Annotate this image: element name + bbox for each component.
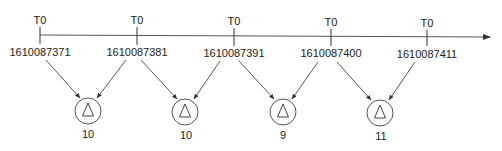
timeline-diagram: T0 1610087371 T0 1610087381 T0 161008739…	[0, 0, 502, 151]
tick-2: T0 1610087391	[203, 15, 264, 59]
tick-0: T0 1610087371	[9, 14, 70, 58]
delta-node-1: 10	[141, 60, 220, 141]
node-value: 11	[375, 130, 386, 142]
tick-label: T0	[228, 15, 241, 27]
tick-timestamp: 1610087400	[300, 47, 361, 59]
tick-3: T0 1610087400	[300, 16, 361, 59]
tick-label: T0	[34, 14, 47, 26]
tick-label: T0	[131, 14, 144, 26]
delta-node-0: 10	[46, 60, 126, 140]
delta-node-2: 9	[239, 61, 318, 141]
delta-node-3: 11	[337, 62, 415, 142]
tick-4: T0 1610087411	[397, 17, 457, 60]
tick-timestamp: 1610087381	[106, 46, 167, 58]
tick-label: T0	[325, 16, 338, 28]
tick-timestamp: 1610087371	[9, 46, 70, 58]
tick-label: T0	[421, 17, 434, 29]
node-value: 10	[82, 128, 94, 140]
node-value: 9	[280, 129, 286, 141]
tick-timestamp: 1610087411	[397, 48, 457, 60]
node-value: 10	[180, 129, 192, 141]
time-axis	[40, 35, 490, 37]
tick-timestamp: 1610087391	[203, 47, 264, 59]
